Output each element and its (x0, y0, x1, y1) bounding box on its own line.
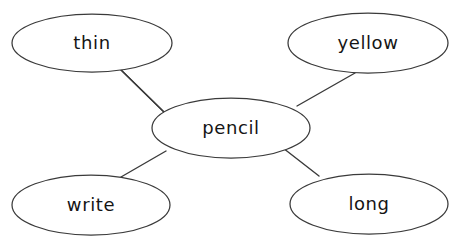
node-pencil-label: pencil (202, 117, 259, 138)
node-yellow[interactable]: yellow (288, 13, 448, 73)
edge-pencil-thin-seg (119, 68, 165, 113)
node-pencil-center[interactable]: pencil (152, 98, 310, 158)
edge-pencil-write (121, 151, 166, 177)
diagram-canvas: thin yellow write long pencil (0, 0, 455, 247)
node-thin[interactable]: thin (12, 14, 172, 72)
word-web-diagram: thin yellow write long pencil (0, 0, 455, 247)
node-long-label: long (348, 193, 389, 214)
node-yellow-label: yellow (337, 32, 398, 53)
node-write[interactable]: write (12, 175, 170, 235)
node-thin-label: thin (73, 32, 110, 53)
edge-pencil-long (283, 148, 319, 176)
node-write-label: write (67, 194, 115, 215)
edge-pencil-yellow (297, 73, 355, 106)
node-long[interactable]: long (290, 174, 448, 234)
